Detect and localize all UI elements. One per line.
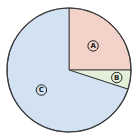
pie-slice-a [69,8,131,70]
slice-label-c: C [39,86,44,94]
pie-slices [7,8,131,132]
pie-chart: ABC [0,0,135,138]
slice-label-a: A [90,42,96,50]
slice-label-b: B [114,74,119,82]
